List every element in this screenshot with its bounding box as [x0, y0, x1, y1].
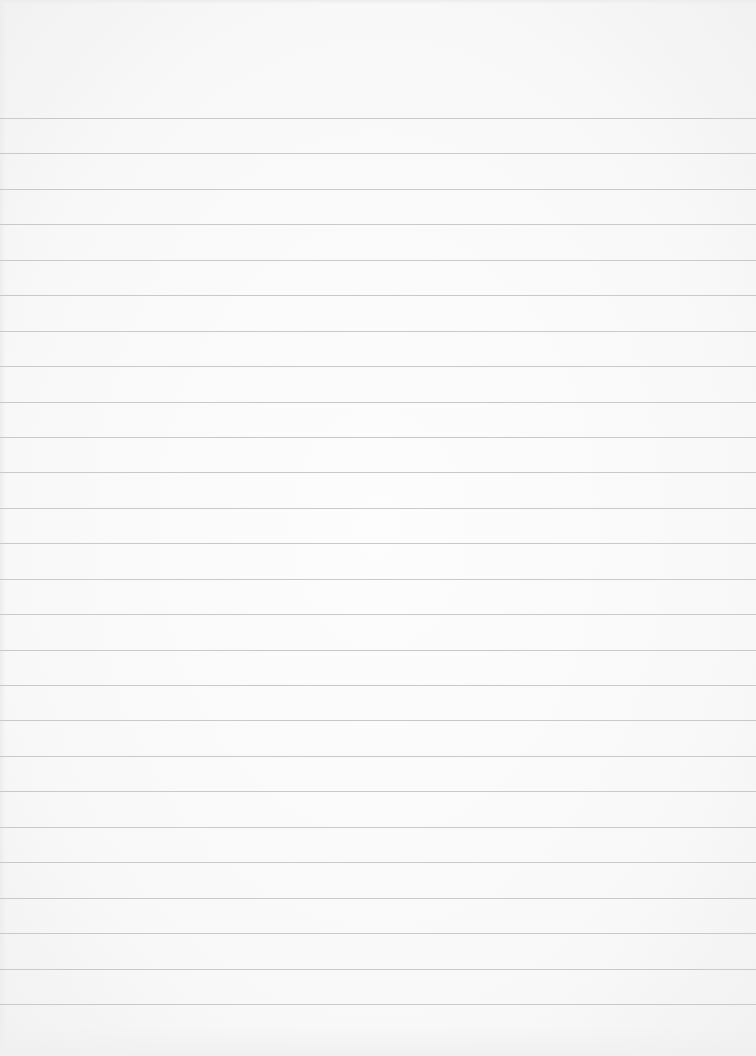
ruled-line: [0, 969, 756, 970]
ruled-line: [0, 756, 756, 757]
ruled-line: [0, 260, 756, 261]
paper-top-edge: [0, 0, 756, 4]
ruled-line: [0, 827, 756, 828]
ruled-line: [0, 1004, 756, 1005]
ruled-line: [0, 189, 756, 190]
ruled-line: [0, 791, 756, 792]
ruled-line: [0, 402, 756, 403]
ruled-line: [0, 118, 756, 119]
ruled-line: [0, 650, 756, 651]
ruled-line: [0, 153, 756, 154]
ruled-line: [0, 720, 756, 721]
ruled-paper-sheet: [0, 0, 756, 1056]
ruled-line: [0, 543, 756, 544]
ruled-line: [0, 472, 756, 473]
ruled-line: [0, 331, 756, 332]
ruled-line: [0, 898, 756, 899]
ruled-line: [0, 862, 756, 863]
ruled-line: [0, 685, 756, 686]
ruled-line: [0, 295, 756, 296]
ruled-line: [0, 614, 756, 615]
ruled-line: [0, 508, 756, 509]
paper-bottom-edge: [0, 1026, 756, 1056]
ruled-line: [0, 224, 756, 225]
ruled-line: [0, 437, 756, 438]
ruled-line: [0, 366, 756, 367]
ruled-line: [0, 579, 756, 580]
ruled-line: [0, 933, 756, 934]
